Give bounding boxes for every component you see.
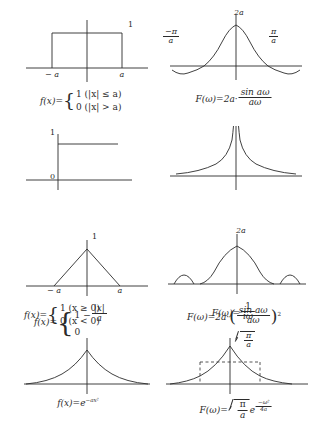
label-peak-1: 1 — [128, 20, 133, 29]
formula-sinc2-power: 2 — [277, 311, 281, 317]
formula-gaussian-function: f(x)=e−ax² — [57, 398, 99, 408]
formula-sinc-den: aω — [239, 98, 272, 107]
formula-rect-lhs: f(x)= — [40, 96, 63, 106]
formula-sinc-lhs: F(ω)=2a· — [196, 94, 238, 104]
formula-tri-case-1: 1 −|x|a — [75, 304, 108, 324]
label-peak-2a: 2a — [234, 8, 244, 17]
plot-sinc — [166, 8, 306, 80]
brace-icon: { — [57, 314, 74, 333]
formula-sinc-squared: F(ω)=2a·(sin aωaω)2 — [187, 306, 281, 326]
formula-sinc2-lhs: F(ω)=2a· — [187, 312, 229, 322]
row-triangle-right: 2a F(ω)=2a·(sin aωaω)2 — [156, 220, 313, 332]
row-gaussian-left: f(x)=e−ax² — [0, 332, 156, 432]
label-omega-pi-over-a: πa — [268, 28, 279, 46]
label-gauss-peak-sqrt-pi-over-a: πa — [234, 332, 255, 350]
sqrt-icon: πa — [228, 400, 250, 420]
row-gaussian-right: πa F(ω)=πae−ω²4a — [156, 332, 313, 432]
brace-icon: { — [63, 95, 75, 109]
formula-gaussian-transform: F(ω)=πae−ω²4a — [200, 400, 273, 420]
formula-gauss-exponent: −ax² — [85, 397, 98, 403]
formula-gausst-lhs: F(ω)= — [200, 405, 228, 415]
label-step-origin-0: 0 — [50, 172, 55, 181]
plot-reciprocal-omega — [166, 120, 306, 190]
plot-gaussian — [22, 336, 152, 394]
formula-sinc2-den: aω — [237, 316, 270, 325]
label-tri-peak-1: 1 — [92, 232, 97, 241]
formula-gauss-lhs: f(x)=e — [57, 398, 85, 408]
label-omega-minus-pi-over-a: −πa — [162, 28, 180, 46]
formula-rect-case-1: 1 (|x| ≤ a) — [76, 88, 121, 101]
label-x-a: a — [120, 70, 125, 79]
row-triangle-left: 1 − a a f(x)={1 −|x|a0 — [0, 220, 156, 332]
plot-sinc-squared — [166, 230, 308, 294]
fourier-transform-table: 1 − a a f(x)={1 (|x| ≤ a)0 (|x| > a) 2a … — [0, 0, 313, 432]
label-x-minus-a: − a — [45, 70, 59, 79]
formula-tri-lhs: f(x)= — [34, 317, 57, 327]
formula-gausst-rad-den: a — [238, 411, 248, 420]
label-step-peak-1: 1 — [50, 128, 55, 137]
plot-unit-step — [22, 128, 152, 190]
label-sinc2-peak-2a: 2a — [236, 226, 246, 235]
label-tri-a: a — [118, 286, 123, 295]
formula-gausst-exp-den: 4a — [256, 407, 271, 413]
row-rectangular-left: 1 − a a f(x)={1 (|x| ≤ a)0 (|x| > a) — [0, 0, 156, 110]
row-step-right: F(ω)=1iω — [156, 110, 313, 220]
row-rectangular-right: 2a −πa πa F(ω)=2a·sin aωaω — [156, 0, 313, 110]
label-tri-minus-a: − a — [47, 286, 61, 295]
row-step-left: 1 0 f(x)={1 (x ≥ 0)0 (x < 0) — [0, 110, 156, 220]
formula-sinc: F(ω)=2a·sin aωaω — [196, 88, 273, 108]
plot-triangle — [22, 234, 152, 296]
